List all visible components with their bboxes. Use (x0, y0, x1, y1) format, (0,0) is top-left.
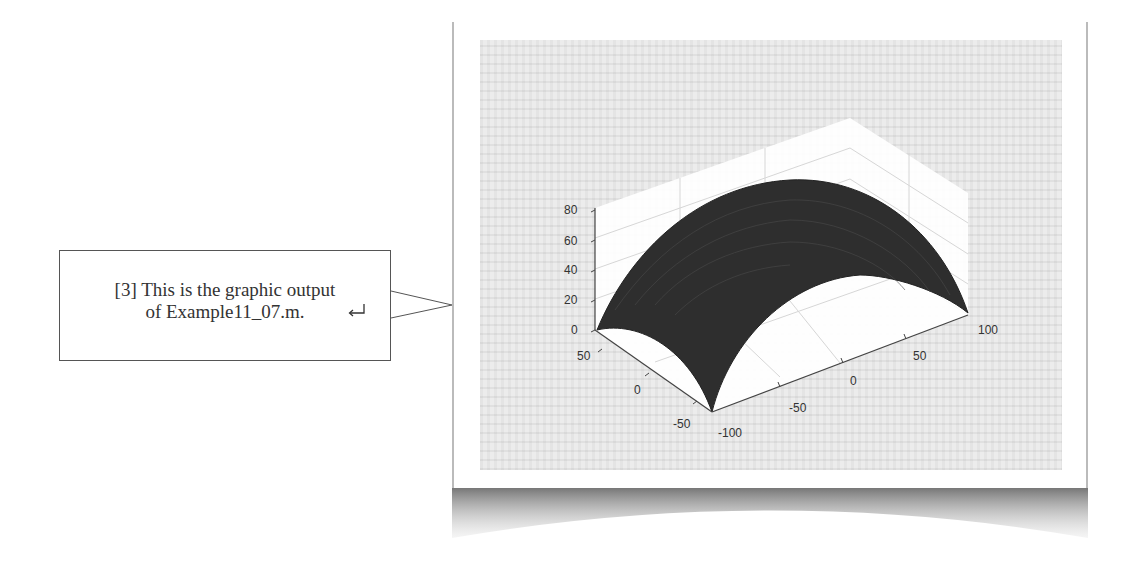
x-tick-0: 0 (850, 374, 857, 388)
y-tick-neg50: -50 (673, 417, 691, 431)
z-tick-0: 0 (571, 323, 578, 337)
x-tick-neg50: -50 (789, 401, 807, 415)
callout-box: [3] This is the graphic output of Exampl… (59, 250, 391, 361)
x-tick-100: 100 (978, 323, 998, 337)
y-tick-0: 0 (634, 383, 641, 397)
callout-text: [3] This is the graphic output of Exampl… (60, 279, 390, 323)
z-tick-40: 40 (564, 263, 578, 277)
y-tick-50: 50 (577, 349, 591, 363)
x-tick-50: 50 (913, 349, 927, 363)
callout-line-2: of Example11_07.m. (60, 301, 390, 323)
callout-line-1: [3] This is the graphic output (60, 279, 390, 301)
x-tick-neg100: -100 (718, 426, 742, 440)
z-tick-60: 60 (564, 234, 578, 248)
z-tick-20: 20 (564, 293, 578, 307)
z-tick-80: 80 (564, 203, 578, 217)
return-arrow-icon (347, 303, 367, 317)
